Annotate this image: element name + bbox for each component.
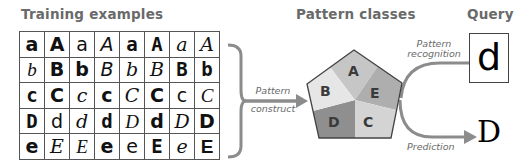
query-glyph: d [477, 38, 501, 76]
brace-icon [228, 45, 246, 157]
slice-label-a: A [348, 63, 359, 79]
pattern-construct-label: Pattern [246, 86, 300, 96]
pattern-recognition-line2: recognition [404, 49, 464, 59]
slice-label-d: D [328, 114, 340, 130]
slice-label-b: B [320, 83, 331, 99]
slice-label-e: E [370, 85, 380, 101]
pattern-construct-line2: construct [244, 104, 302, 114]
prediction-result: D [477, 117, 501, 147]
prediction-label: Prediction [407, 142, 455, 152]
pattern-classes-pentagon: A E C D B [307, 50, 402, 138]
prediction-arrowhead-icon [464, 130, 477, 144]
query-image-box: d [469, 33, 509, 83]
pattern-construct-line1: Pattern [246, 86, 300, 96]
pattern-construct-label-2: construct [244, 104, 302, 114]
prediction-arrow [400, 100, 466, 137]
pattern-recognition-label: Pattern recognition [404, 39, 464, 59]
slice-label-c: C [363, 114, 373, 130]
recognition-connector [401, 63, 469, 98]
